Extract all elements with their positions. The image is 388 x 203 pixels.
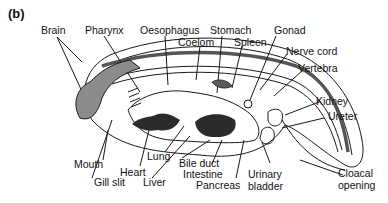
panel-label: (b) <box>8 8 25 19</box>
embryo-anatomy-diagram: (b) Brain Pharynx Oesophagus Coelom Stom… <box>0 0 388 203</box>
label-kidney: Kidney <box>316 96 348 107</box>
label-stomach: Stomach <box>210 25 251 36</box>
label-lung: Lung <box>147 151 170 162</box>
label-heart: Heart <box>120 167 146 178</box>
liver-shape <box>195 114 236 137</box>
label-gill-slit: Gill slit <box>94 177 125 188</box>
label-ureter: Ureter <box>328 111 357 122</box>
label-cloacal-opening-2: opening <box>338 180 375 191</box>
heart-shape <box>132 113 180 130</box>
label-cloacal-opening-1: Cloacal <box>338 168 373 179</box>
label-brain: Brain <box>41 25 66 36</box>
label-oesophagus: Oesophagus <box>140 25 200 36</box>
label-urinary-bladder-2: bladder <box>248 181 283 192</box>
brain-shape <box>76 60 140 119</box>
label-gonad: Gonad <box>274 25 306 36</box>
label-mouth: Mouth <box>74 159 103 170</box>
spleen-shape <box>212 80 232 88</box>
label-urinary-bladder-1: Urinary <box>248 169 282 180</box>
label-pharynx: Pharynx <box>85 25 124 36</box>
label-liver: Liver <box>143 177 166 188</box>
label-coelom: Coelom <box>178 37 214 48</box>
label-pancreas: Pancreas <box>196 180 240 191</box>
label-nerve-cord: Nerve cord <box>286 46 337 57</box>
label-spleen: Spleen <box>234 37 267 48</box>
label-vertebra: Vertebra <box>298 63 338 74</box>
